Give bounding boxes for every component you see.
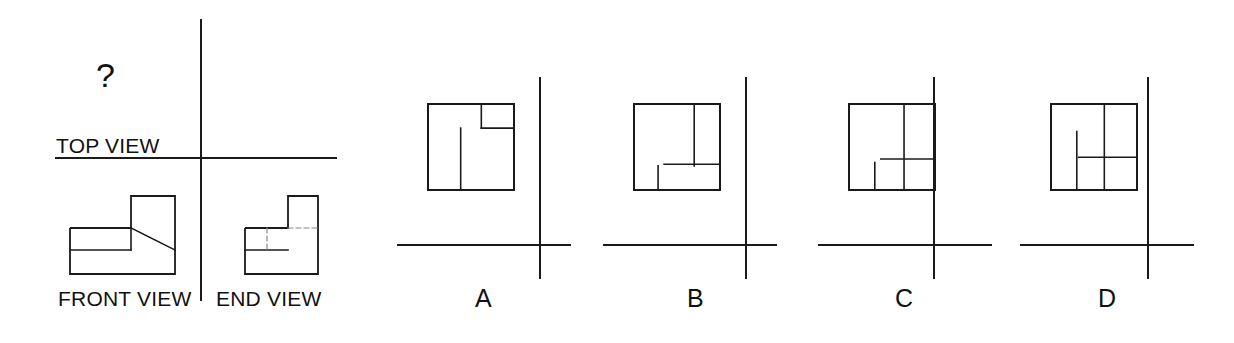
option-label-d[interactable]: D (1098, 286, 1116, 311)
front-view-label: FRONT VIEW (58, 288, 191, 309)
top-view-label: TOP VIEW (56, 135, 160, 156)
orthographic-projection-puzzle: ? TOP VIEW FRONT VIEW END VIEW A B C D (0, 0, 1234, 343)
option-graphics (398, 78, 1193, 278)
front-view-diagonal-line (131, 228, 175, 250)
end-view-label: END VIEW (216, 288, 321, 309)
front-view-outline (70, 196, 175, 274)
option-label-c[interactable]: C (895, 286, 913, 311)
option-D-square-outline[interactable] (1051, 104, 1137, 190)
end-view-outline (245, 196, 318, 274)
given-panel-shapes (70, 196, 318, 274)
option-label-b[interactable]: B (687, 286, 704, 311)
option-B-square-outline[interactable] (634, 104, 720, 190)
option-label-a[interactable]: A (475, 286, 492, 311)
option-C-square-outline[interactable] (849, 104, 935, 190)
unknown-top-view-marker: ? (96, 58, 115, 92)
option-A-square-outline[interactable] (428, 104, 514, 190)
